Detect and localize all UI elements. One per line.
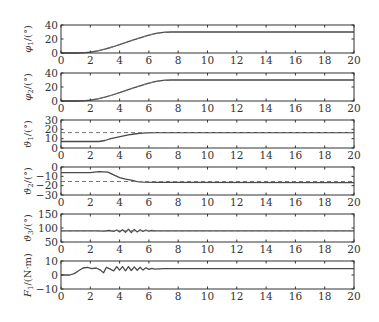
x-tick-label: 8 — [175, 196, 182, 208]
y-tick-label: 0 — [51, 269, 58, 281]
x-tick-label: 14 — [259, 196, 273, 208]
x-tick-label: 10 — [201, 290, 214, 302]
x-tick-label: 16 — [289, 290, 303, 302]
series-reference-line — [61, 32, 354, 53]
x-tick-label: 0 — [58, 196, 65, 208]
y-tick-label: −30 — [36, 189, 58, 201]
x-tick-label: 16 — [289, 243, 303, 255]
x-tick-label: 2 — [87, 243, 94, 255]
x-tick-label: 12 — [230, 290, 243, 302]
x-tick-label: 4 — [116, 243, 123, 255]
x-tick-label: 8 — [175, 54, 182, 66]
x-tick-label: 12 — [230, 196, 243, 208]
x-tick-label: 0 — [58, 54, 65, 66]
y-tick-label: 0 — [51, 47, 58, 59]
x-tick-label: 10 — [201, 54, 214, 66]
subplot-4: 024681012141618200−10−20−30ϑ2/(°) — [22, 161, 361, 209]
x-tick-label: 20 — [347, 290, 360, 302]
x-tick-label: 4 — [116, 54, 123, 66]
series-actual-line — [61, 80, 354, 101]
x-tick-label: 10 — [201, 196, 214, 208]
x-tick-label: 18 — [318, 290, 331, 302]
x-tick-label: 8 — [175, 290, 182, 302]
x-tick-label: 10 — [201, 149, 214, 161]
y-axis-label: ϑ1/(°) — [22, 120, 35, 148]
x-tick-label: 2 — [87, 196, 94, 208]
x-tick-label: 4 — [116, 102, 123, 114]
x-tick-label: 16 — [289, 54, 303, 66]
x-tick-label: 6 — [146, 196, 153, 208]
x-tick-label: 18 — [318, 54, 331, 66]
figure: 0246810121416182002040φ1/(°)024681012141… — [0, 0, 379, 322]
x-tick-label: 2 — [87, 149, 94, 161]
x-tick-label: 8 — [175, 243, 182, 255]
y-tick-label: 20 — [45, 33, 58, 45]
x-tick-label: 20 — [347, 149, 360, 161]
subplot-2: 0246810121416182002040φ2/(°) — [22, 67, 361, 115]
x-tick-label: 4 — [116, 149, 123, 161]
axes-frame — [61, 120, 354, 148]
x-tick-label: 8 — [175, 102, 182, 114]
y-tick-label: 20 — [45, 81, 58, 93]
x-tick-label: 14 — [259, 290, 273, 302]
x-tick-label: 6 — [146, 243, 153, 255]
y-axis-label: F1/(N·m) — [22, 253, 35, 298]
x-tick-label: 0 — [58, 102, 65, 114]
y-tick-label: 150 — [38, 208, 58, 220]
y-tick-label: 0 — [51, 95, 58, 107]
subplot-1: 0246810121416182002040φ1/(°) — [22, 19, 361, 67]
x-tick-label: 0 — [58, 243, 65, 255]
y-tick-label: −10 — [36, 283, 58, 295]
x-tick-label: 16 — [289, 102, 303, 114]
series-actual-line — [61, 267, 354, 275]
subplot-6: 02468101214161820100−10F1/(N·m) — [22, 253, 361, 302]
x-tick-label: 6 — [146, 290, 153, 302]
y-tick-label: 40 — [45, 67, 58, 79]
series-actual-line — [61, 133, 354, 142]
x-tick-label: 18 — [318, 243, 331, 255]
x-tick-label: 14 — [259, 54, 273, 66]
x-tick-label: 2 — [87, 102, 94, 114]
x-tick-label: 14 — [259, 243, 273, 255]
y-axis-label: φ1/(°) — [22, 25, 35, 53]
x-tick-label: 12 — [230, 54, 243, 66]
y-tick-label: 100 — [38, 222, 58, 234]
x-tick-label: 18 — [318, 149, 331, 161]
x-tick-label: 12 — [230, 102, 243, 114]
y-tick-label: 30 — [45, 114, 58, 126]
y-axis-label: ϑ2/(°) — [22, 167, 35, 195]
x-tick-label: 16 — [289, 149, 303, 161]
x-tick-label: 20 — [347, 196, 360, 208]
subplot-5: 0246810121416182050100150ϑ3/(°) — [22, 208, 361, 256]
x-tick-label: 4 — [116, 196, 123, 208]
x-tick-label: 4 — [116, 290, 123, 302]
x-tick-label: 10 — [201, 102, 214, 114]
y-axis-label: φ2/(°) — [22, 73, 35, 101]
axes-frame — [61, 261, 354, 289]
y-tick-label: 10 — [45, 255, 58, 267]
axes-frame — [61, 214, 354, 242]
x-tick-label: 12 — [230, 243, 243, 255]
y-axis-label: ϑ3/(°) — [22, 214, 35, 242]
x-tick-label: 6 — [146, 54, 153, 66]
x-tick-label: 18 — [318, 196, 331, 208]
y-tick-label: 50 — [45, 236, 58, 248]
x-tick-label: 10 — [201, 243, 214, 255]
x-tick-label: 20 — [347, 54, 360, 66]
series-actual-line — [61, 32, 354, 53]
x-tick-label: 6 — [146, 149, 153, 161]
subplot-3: 024681012141618200102030ϑ1/(°) — [22, 114, 361, 162]
x-tick-label: 0 — [58, 149, 65, 161]
x-tick-label: 2 — [87, 290, 94, 302]
x-tick-label: 0 — [58, 290, 65, 302]
x-tick-label: 14 — [259, 149, 273, 161]
x-tick-label: 2 — [87, 54, 94, 66]
x-tick-label: 12 — [230, 149, 243, 161]
x-tick-label: 8 — [175, 149, 182, 161]
x-tick-label: 20 — [347, 243, 360, 255]
y-tick-label: 40 — [45, 19, 58, 31]
x-tick-label: 14 — [259, 102, 273, 114]
x-tick-label: 20 — [347, 102, 360, 114]
x-tick-label: 18 — [318, 102, 331, 114]
x-tick-label: 16 — [289, 196, 303, 208]
